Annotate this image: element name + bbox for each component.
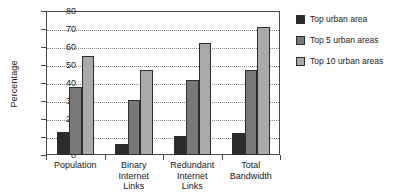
bar [115,144,128,155]
bar [140,70,153,156]
x-axis-category-label: Total Bandwidth [222,160,281,181]
legend-label: Top 10 urban areas [310,57,383,66]
legend-label: Top urban area [310,15,367,24]
bar-chart: Percentage 01020304050607080 PopulationB… [0,0,394,196]
legend-item: Top 10 urban areas [296,54,392,69]
bar [186,80,199,155]
y-axis-title: Percentage [9,34,23,134]
x-axis-category-label: Binary Internet Links [105,160,164,192]
bar [199,43,212,155]
bar [174,136,187,155]
bars-layer [46,11,280,155]
legend-item: Top urban area [296,12,392,27]
bar [69,87,82,155]
bar [257,27,270,155]
bar [82,56,95,155]
bar [128,100,141,155]
bar [245,70,258,156]
x-axis-category-label: Population [46,160,105,171]
legend-swatch-icon [296,57,305,66]
legend: Top urban areaTop 5 urban areasTop 10 ur… [296,12,392,75]
legend-swatch-icon [296,36,305,45]
x-axis-category-label: Redundant Internet Links [163,160,222,192]
x-tick-mark [280,155,281,160]
legend-label: Top 5 urban areas [310,36,379,45]
legend-item: Top 5 urban areas [296,33,392,48]
legend-swatch-icon [296,15,305,24]
bar [57,132,70,155]
bar [232,133,245,155]
